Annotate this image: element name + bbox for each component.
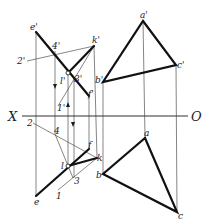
label-l-prime: l' xyxy=(60,76,65,86)
arrow-down-icon xyxy=(53,84,57,89)
line-ef-front xyxy=(36,32,89,96)
label-e: e xyxy=(34,197,39,207)
label-f-prime: f' xyxy=(87,89,94,99)
line-ef-top xyxy=(36,149,89,196)
point-l-marker xyxy=(66,164,70,168)
label-b-prime: b' xyxy=(95,75,103,85)
triangle-abc-top xyxy=(103,138,177,212)
label-k: k xyxy=(97,153,102,163)
diagram-canvas: X O e' k' 4' 2' l' 3' f' 1' a' b' c' e f… xyxy=(0,0,213,220)
label-4-prime: 4' xyxy=(51,41,60,51)
label-e-prime: e' xyxy=(30,22,38,32)
label-1: 1 xyxy=(56,191,62,201)
label-3-prime: 3' xyxy=(74,74,82,84)
arrow-up-icon xyxy=(66,102,70,107)
axis-label-o: O xyxy=(191,109,202,124)
front-view-bold xyxy=(36,21,176,96)
label-f: f xyxy=(87,140,93,150)
label-c-prime: c' xyxy=(177,60,185,70)
label-2: 2 xyxy=(26,118,33,128)
label-3: 3 xyxy=(74,176,80,186)
arrow-down-icon xyxy=(71,122,75,127)
label-a-prime: a' xyxy=(140,10,148,20)
label-l: l xyxy=(61,161,64,171)
label-k-prime: k' xyxy=(92,35,100,45)
label-a: a xyxy=(144,128,149,138)
label-2-prime: 2' xyxy=(16,56,25,66)
label-4: 4 xyxy=(53,126,60,136)
line-lk-top xyxy=(68,158,97,166)
point-l-prime-marker xyxy=(66,71,70,75)
label-c: c xyxy=(178,211,183,220)
line-lk-front xyxy=(68,46,94,73)
projection-diagram: X O e' k' 4' 2' l' 3' f' 1' a' b' c' e f… xyxy=(0,0,213,220)
axis-label-x: X xyxy=(7,109,18,124)
label-1-prime: 1' xyxy=(57,103,65,113)
triangle-abc-front xyxy=(103,21,176,82)
label-b: b xyxy=(96,170,102,180)
